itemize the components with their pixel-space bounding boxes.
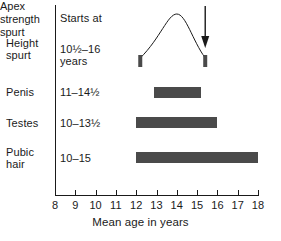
x-tick-18 — [258, 190, 259, 196]
x-tick-15 — [197, 190, 198, 196]
puberty-timing-chart: Starts at Height spurt 10½–16 years Peni… — [0, 0, 281, 241]
x-tick-label-11: 11 — [106, 199, 126, 211]
row-label-penis: Penis — [6, 86, 34, 98]
x-tick-label-12: 12 — [126, 199, 146, 211]
x-tick-label-13: 13 — [147, 199, 167, 211]
row-label-height-spurt-line2: spurt — [6, 49, 31, 61]
apex-strength-spurt-annotation: Apex strength spurt — [0, 0, 281, 39]
x-tick-10 — [96, 190, 97, 196]
x-tick-label-10: 10 — [86, 199, 106, 211]
starts-at-penis: 11–14½ — [60, 86, 100, 98]
row-label-height-spurt-line1: Height — [6, 37, 38, 49]
x-tick-8 — [55, 190, 56, 196]
starts-at-pubic-hair: 10–15 — [60, 152, 91, 164]
x-tick-13 — [157, 190, 158, 196]
starts-at-header: Starts at — [60, 12, 102, 24]
x-tick-label-15: 15 — [187, 199, 207, 211]
starts-at-height-spurt: 10½–16 — [60, 43, 100, 55]
row-label-testes: Testes — [6, 117, 38, 129]
x-tick-16 — [217, 190, 218, 196]
x-tick-label-16: 16 — [207, 199, 227, 211]
curve-end-marker — [203, 55, 207, 67]
x-tick-9 — [75, 190, 76, 196]
x-tick-label-18: 18 — [248, 199, 268, 211]
annotation-line-2: strength — [0, 13, 281, 26]
annotation-line-1: Apex — [0, 0, 281, 13]
curve-start-marker — [138, 55, 142, 67]
bar-penis — [154, 87, 201, 98]
starts-at-testes: 10–13½ — [60, 117, 100, 129]
x-tick-17 — [238, 190, 239, 196]
x-axis-title: Mean age in years — [0, 216, 281, 228]
x-tick-label-9: 9 — [65, 199, 85, 211]
row-label-pubic-hair-line1: Pubic — [6, 146, 34, 158]
starts-at-height-spurt-units: years — [60, 55, 87, 67]
bar-testes — [136, 117, 217, 128]
x-tick-label-14: 14 — [167, 199, 187, 211]
x-tick-label-17: 17 — [228, 199, 248, 211]
column-divider — [55, 5, 56, 196]
x-tick-11 — [116, 190, 117, 196]
annotation-line-3: spurt — [0, 26, 281, 39]
x-tick-12 — [136, 190, 137, 196]
bar-pubic-hair — [136, 152, 258, 163]
x-tick-label-8: 8 — [45, 199, 65, 211]
x-tick-14 — [177, 190, 178, 196]
row-label-pubic-hair-line2: hair — [6, 158, 25, 170]
